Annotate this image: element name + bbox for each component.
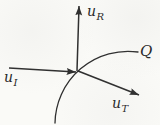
label-u-T: uT	[112, 96, 128, 110]
label-u-I-base: u	[4, 69, 13, 85]
vector-u-incident	[9, 68, 76, 72]
label-u-R-sub: R	[97, 11, 105, 22]
label-u-T-sub: T	[122, 103, 129, 114]
vector-diagram-figure: uR uI uT Q	[0, 0, 160, 125]
vector-u-transmitted	[78, 71, 139, 95]
label-Q-base: Q	[140, 42, 152, 60]
label-u-I: uI	[4, 70, 17, 84]
label-u-R-base: u	[87, 3, 96, 19]
vector-u-reflected	[77, 6, 79, 71]
label-u-I-sub: I	[14, 77, 18, 88]
label-u-T-base: u	[112, 95, 121, 111]
label-Q: Q	[140, 44, 153, 59]
label-u-R: uR	[87, 4, 104, 18]
diagram-canvas	[0, 0, 160, 125]
